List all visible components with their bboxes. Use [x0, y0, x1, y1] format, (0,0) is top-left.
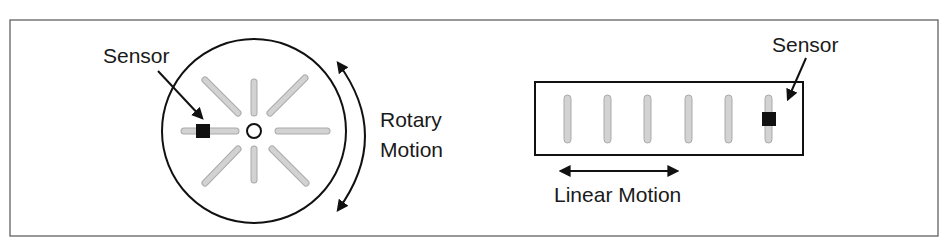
linear-slot: [685, 95, 692, 143]
rotary-sensor: [196, 124, 210, 138]
linear-motion-label: Linear Motion: [554, 183, 681, 206]
linear-slot: [604, 95, 611, 143]
linear-slot: [644, 95, 651, 143]
rotary-motion-label-line2: Motion: [380, 138, 443, 161]
rotary-motion-label-line1: Rotary: [380, 108, 442, 131]
linear-slot: [564, 95, 571, 143]
encoder-diagram: Sensor Rotary Motion Sensor Linear Motio…: [0, 0, 947, 248]
linear-slot: [725, 95, 732, 143]
linear-sensor-label: Sensor: [772, 33, 839, 56]
wheel-hub: [247, 124, 261, 138]
rotary-sensor-label: Sensor: [103, 44, 170, 67]
linear-sensor: [762, 112, 776, 126]
